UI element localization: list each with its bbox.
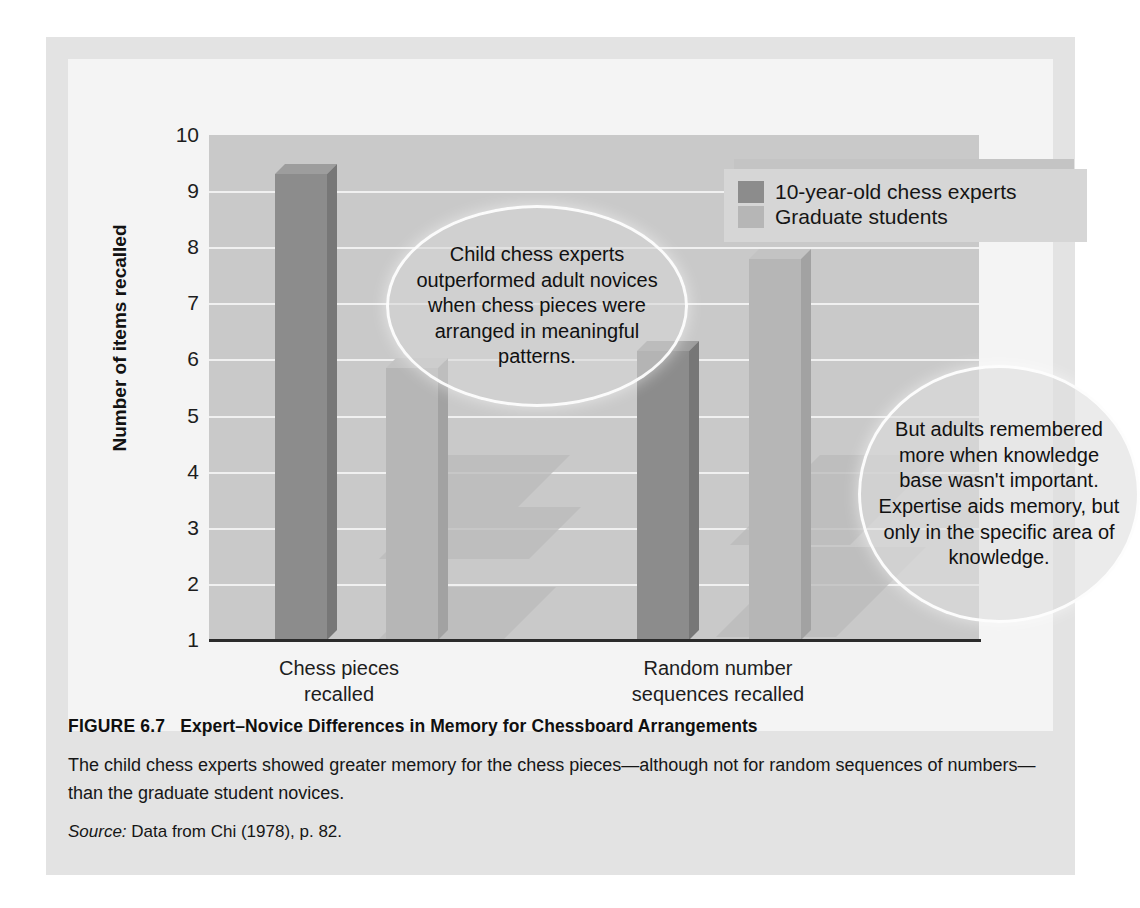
y-tick-4: 4 [187,460,199,484]
legend-swatch-experts [738,181,764,203]
bar-experts-random [637,351,689,640]
legend-item-students: Graduate students [738,205,1073,229]
y-tick-3: 3 [187,516,199,540]
figure-card: Number of items recalled 10 9 8 7 6 5 4 … [46,37,1075,875]
y-tick-10: 10 [176,123,199,147]
bar-experts-chess [275,174,327,640]
y-tick-5: 5 [187,404,199,428]
y-tick-8: 8 [187,235,199,259]
x-label-chess-pieces: Chess pieces recalled [224,655,454,707]
bar-side [801,249,811,640]
y-tick-1: 1 [187,628,199,652]
x-label-line-2: sequences recalled [578,681,858,707]
bar-students-random [749,259,801,640]
legend-item-experts: 10-year-old chess experts [738,180,1073,204]
legend-label-experts: 10-year-old chess experts [775,180,1017,204]
x-axis-line [209,639,981,642]
chart-panel: Number of items recalled 10 9 8 7 6 5 4 … [68,59,1053,731]
callout-right: But adults remembered more when knowledg… [858,365,1140,623]
bar-face [386,368,438,640]
caption-title-line: FIGURE 6.7 Expert–Novice Differences in … [68,716,1054,737]
y-tick-7: 7 [187,291,199,315]
caption-source: Source: Data from Chi (1978), p. 82. [68,822,1054,842]
x-label-line-1: Chess pieces [224,655,454,681]
caption-body: The child chess experts showed greater m… [68,752,1054,808]
source-label: Source: [68,822,127,841]
y-axis-title: Number of items recalled [109,224,131,451]
legend-label-students: Graduate students [775,205,948,229]
figure-title: Expert–Novice Differences in Memory for … [180,716,758,736]
callout-left-text: Child chess experts outperformed adult n… [389,242,685,370]
bar-face [275,174,327,640]
x-label-random-numbers: Random number sequences recalled [578,655,858,707]
figure-number: FIGURE 6.7 [68,716,165,736]
legend-swatch-students [738,206,764,228]
chart-legend: 10-year-old chess experts Graduate stude… [724,169,1087,242]
bar-side [438,358,448,640]
bar-side [689,341,699,640]
y-tick-9: 9 [187,179,199,203]
x-label-line-1: Random number [578,655,858,681]
bar-face [637,351,689,640]
bar-students-chess [386,368,438,640]
source-text: Data from Chi (1978), p. 82. [131,822,342,841]
y-axis-ticks: 10 9 8 7 6 5 4 3 2 1 [153,59,199,731]
x-label-line-2: recalled [224,681,454,707]
y-tick-2: 2 [187,572,199,596]
bar-side [327,164,337,640]
callout-right-text: But adults remembered more when knowledg… [861,417,1137,571]
bar-face [749,259,801,640]
figure-caption: FIGURE 6.7 Expert–Novice Differences in … [68,716,1054,842]
callout-left: Child chess experts outperformed adult n… [386,205,688,407]
y-tick-6: 6 [187,347,199,371]
